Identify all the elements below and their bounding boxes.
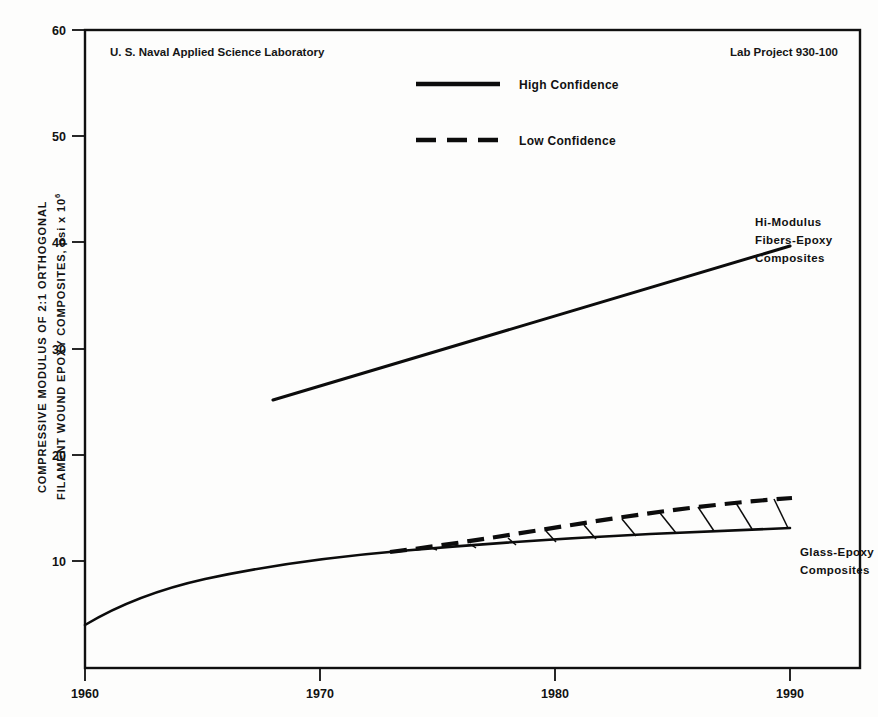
series-curve-glass-epoxy-high-confidence (85, 528, 790, 625)
series-curve-glass-epoxy-low-confidence (390, 498, 792, 552)
legend-label-low-confidence: Low Confidence (519, 134, 616, 148)
x-axis-ticks (85, 668, 790, 681)
x-axis-tick-labels: 1960 1970 1980 1990 (71, 687, 804, 701)
lab-name-text: U. S. Naval Applied Science Laboratory (110, 46, 325, 58)
annotation-hi-modulus-line-2: Fibers-Epoxy (755, 234, 833, 246)
y-tick-label-40: 40 (52, 236, 66, 250)
y-tick-label-10: 10 (52, 555, 66, 569)
lab-project-text: Lab Project 930-100 (730, 46, 838, 58)
plot-frame (85, 30, 860, 668)
annotation-hi-modulus-line-3: Composites (755, 252, 825, 264)
x-tick-label-1990: 1990 (776, 687, 804, 701)
confidence-band-hatching (432, 499, 788, 550)
annotation-glass-epoxy-line-2: Composites (800, 564, 870, 576)
annotation-hi-modulus-line-1: Hi-Modulus (755, 216, 822, 228)
y-axis-ticks (72, 30, 85, 561)
legend-label-high-confidence: High Confidence (519, 78, 619, 92)
hatch-tick (774, 499, 788, 528)
y-tick-label-50: 50 (52, 130, 66, 144)
annotation-glass-epoxy: Glass-Epoxy Composites (800, 546, 874, 576)
y-tick-label-30: 30 (52, 343, 66, 357)
y-tick-label-60: 60 (52, 24, 66, 38)
y-axis-tick-labels: 60 50 40 30 20 10 (52, 24, 66, 569)
hatch-tick (736, 503, 752, 529)
hatch-tick (622, 519, 636, 536)
chart-canvas: 60 50 40 30 20 10 1960 1970 1980 1990 U.… (0, 0, 878, 717)
annotation-glass-epoxy-line-1: Glass-Epoxy (800, 546, 874, 558)
chart-page: COMPRESSIVE MODULUS OF 2:1 ORTHOGONAL FI… (0, 0, 878, 717)
annotation-hi-modulus: Hi-Modulus Fibers-Epoxy Composites (755, 216, 833, 264)
legend: High Confidence Low Confidence (416, 78, 619, 148)
hatch-tick (698, 507, 714, 531)
hatch-tick (660, 513, 676, 533)
x-tick-label-1960: 1960 (71, 687, 99, 701)
series-line-hi-modulus (273, 246, 790, 400)
y-tick-label-20: 20 (52, 449, 66, 463)
x-tick-label-1980: 1980 (541, 687, 569, 701)
x-tick-label-1970: 1970 (306, 687, 334, 701)
